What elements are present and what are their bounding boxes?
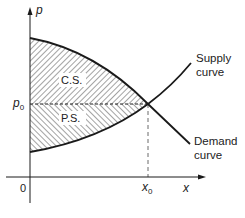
supply-demand-diagram: C.S. P.S. p x 0 p0 x0 Supply curve Deman… <box>0 0 245 218</box>
consumer-surplus-label: C.S. <box>61 74 82 86</box>
producer-surplus-label: P.S. <box>61 112 80 124</box>
consumer-surplus-region <box>30 38 148 104</box>
y-axis-arrow-icon <box>28 7 33 15</box>
x0-label: x0 <box>141 180 153 196</box>
y-axis-label: p <box>35 3 43 17</box>
x-axis-label: x <box>182 181 190 195</box>
x-axis-arrow-icon <box>198 175 206 180</box>
demand-curve-label: Demand curve <box>194 135 241 161</box>
origin-label: 0 <box>20 182 26 194</box>
p0-label: p0 <box>12 96 25 112</box>
supply-curve-label: Supply curve <box>196 52 234 78</box>
producer-surplus-region <box>30 104 148 152</box>
